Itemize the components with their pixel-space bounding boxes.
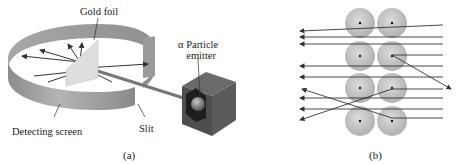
caption-b: (b) <box>369 149 382 161</box>
label-detecting-screen: Detecting screen <box>12 126 82 137</box>
caption-a: (a) <box>123 149 135 161</box>
alpha-emitter-box <box>182 72 236 136</box>
label-alpha-emitter: α Particle emitter <box>178 39 218 61</box>
label-alpha-emitter-line1: α Particle <box>178 39 218 50</box>
rutherford-diagram <box>0 0 457 164</box>
label-slit: Slit <box>139 123 154 134</box>
label-alpha-emitter-line2: emitter <box>178 50 218 61</box>
alpha-paths <box>300 25 451 120</box>
leader-slit <box>138 104 145 117</box>
label-gold-foil: Gold foil <box>80 6 118 17</box>
